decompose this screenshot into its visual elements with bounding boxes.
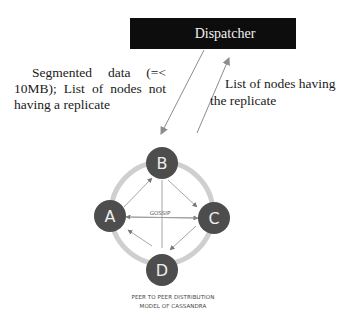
node-a-label: A [105, 207, 116, 226]
node-b-label: B [157, 154, 168, 173]
annotation-line: having a replicate [14, 97, 166, 113]
node-c-label: C [208, 209, 219, 228]
arrow-dispatcher-to-cluster [161, 50, 204, 134]
dispatcher-label: Dispatcher [195, 26, 256, 42]
annotation-line: 10MB); List of nodes not [14, 81, 166, 97]
node-b: B [146, 147, 178, 179]
gossip-label: GOSSIP [150, 210, 171, 216]
node-d-label: D [156, 261, 168, 280]
replicate-nodes-annotation: List of nodes having the replicate [210, 75, 346, 109]
node-d: D [146, 254, 178, 286]
node-a: A [94, 200, 126, 232]
segmented-data-annotation: Segmented data (=< 10MB); List of nodes … [14, 65, 166, 113]
diagram-caption: PEER TO PEER DISTRIBUTION MODEL OF CASSA… [118, 293, 228, 311]
dispatcher-box: Dispatcher [130, 18, 296, 49]
caption-line: PEER TO PEER DISTRIBUTION [118, 293, 228, 302]
node-c: C [198, 202, 230, 234]
annotation-line: Segmented data (=< [14, 65, 166, 81]
annotation-line: List of nodes having [210, 75, 346, 92]
caption-line: MODEL OF CASSANDRA [118, 302, 228, 311]
annotation-line: the replicate [210, 92, 346, 109]
